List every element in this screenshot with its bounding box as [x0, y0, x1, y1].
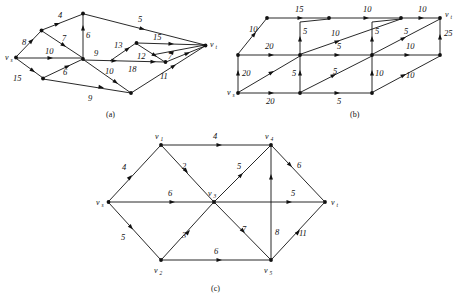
node-a-center [81, 57, 85, 61]
node-c-v4 [269, 143, 273, 147]
node-a-midupper [135, 41, 139, 45]
vertex-label-b-vt: v [445, 10, 449, 19]
capacity-a-center-midright-9: 9 [94, 48, 99, 58]
figure-b: v s v t 20 10 20 20 15 5 5 5 5 10 5 10 1… [227, 4, 453, 119]
arrowhead-vs-to-center [48, 56, 54, 60]
capacity-a-midupper-vt: 15 [153, 32, 162, 42]
node-a-vt [204, 44, 208, 48]
capacity-a-center-bottom: 10 [105, 66, 114, 76]
arrowhead-b-topleft-to-topc1 [298, 16, 304, 20]
edge-c-v5-to-vt [272, 203, 324, 259]
capacity-b-vs-midleft: 20 [242, 68, 251, 78]
arrowhead-b-topc2-to-vt [419, 16, 425, 20]
capacity-a-bottom-vt: 11 [160, 71, 168, 81]
arrowhead-b-midc2-to-topc2-vert [370, 36, 374, 42]
arrowhead-midupper-to-vt [168, 42, 174, 46]
capacity-a-vs-center: 10 [45, 46, 54, 56]
node-a-bottom [129, 91, 133, 95]
vertex-sub-a-vt: t [216, 44, 218, 50]
capacity-c-v2-v3: 3 [181, 230, 186, 240]
vertex-sub-c-v3: 3 [213, 193, 217, 199]
arrowhead-b-vs-to-botc1 [269, 91, 275, 95]
capacity-a-lowerleft-center: 6 [63, 67, 68, 77]
arrowhead-c-v1-to-v4 [217, 143, 223, 147]
capacity-a-upperleft-center: 7 [62, 33, 67, 43]
node-b-topleft [265, 16, 269, 20]
node-b-midc2 [370, 53, 374, 57]
edge-c-vs-to-v2 [109, 203, 160, 259]
figure-a-capacity-labels: 8 4 6 5 10 7 15 6 9 9 10 13 15 12 18 7 1… [13, 10, 173, 103]
figure-c-nodes [107, 143, 327, 262]
vertex-label-c-v3: v [208, 189, 212, 198]
capacity-c-v4-vt: 6 [297, 160, 302, 170]
capacity-b-topleft-topc1: 15 [295, 4, 304, 14]
arrowhead-c-vs-to-v1 [127, 174, 134, 181]
network-flow-figures: v s v t 8 4 6 5 10 7 15 6 9 9 10 13 15 1… [0, 0, 466, 297]
capacity-a-top-center: 6 [86, 30, 91, 40]
edge-vs-to-upperleft [17, 31, 41, 56]
vertex-label-c-v1: v [155, 132, 159, 141]
vertex-label-a-vs: v [5, 53, 9, 62]
node-b-vt [438, 16, 442, 20]
vertex-label-c-v5: v [264, 266, 268, 275]
vertex-sub-c-vs: s [102, 202, 104, 208]
capacity-c-v5-vt: 11 [299, 228, 307, 238]
node-c-v2 [159, 258, 163, 262]
arrowhead-b-vs-to-midleft [236, 70, 240, 76]
arrowhead-b-midc1-to-midc2 [335, 53, 341, 57]
capacity-b-vs-botc1: 20 [266, 96, 275, 106]
node-c-vt [323, 200, 327, 204]
figure-caption-c: (c) [211, 284, 220, 293]
arrowhead-bottom-to-vt [170, 63, 177, 69]
node-b-topc1 [327, 16, 331, 20]
vertex-sub-a-vs: s [11, 57, 13, 63]
arrowhead-b-botc1-to-midc1 [298, 70, 302, 76]
node-b-topc2 [399, 16, 403, 20]
arrowhead-center-to-midupper [124, 46, 131, 52]
capacity-c-v3-v5: 7 [242, 224, 247, 234]
capacity-b-botc3-vt: 25 [444, 28, 453, 38]
arrowhead-c-v3-to-vt [287, 200, 293, 204]
arrowhead-b-midc1-to-topc1-vert [298, 36, 302, 42]
figure-c: v s v 1 v 2 v 3 v 4 v 5 v t 4 5 6 4 [96, 131, 339, 293]
capacity-b-botc2-midc2: 10 [375, 68, 384, 78]
capacity-b-botc1-midc2: 5 [333, 66, 337, 76]
capacity-a-center-midright-18: 18 [128, 64, 137, 74]
edge-c-v4-to-vt [272, 146, 324, 201]
capacity-b-botc1-botc2: 5 [337, 96, 341, 106]
capacity-b-midleft-midc1: 20 [265, 41, 274, 51]
arrowhead-c-v5-to-v4 [269, 174, 273, 180]
node-b-vs [236, 91, 240, 95]
node-c-v5 [269, 258, 273, 262]
capacity-a-upperleft-top: 4 [58, 10, 63, 20]
arrowhead-b-botc2-to-midc2 [370, 70, 374, 76]
node-b-botc2 [370, 91, 374, 95]
vertex-sub-c-v1: 1 [161, 136, 164, 142]
arrowhead-center-to-midright-b [150, 60, 156, 64]
figure-b-vertex-labels: v s v t [227, 10, 453, 98]
capacity-c-vs-v3: 6 [168, 188, 173, 198]
node-b-midleft [236, 53, 240, 57]
capacity-b-midc2-botc3: 10 [406, 41, 415, 51]
capacity-a-center-midupper: 13 [114, 40, 123, 50]
figure-c-edges [109, 143, 324, 262]
capacity-b-midc2-vt: 5 [404, 26, 408, 36]
edge-b-midc1-to-topc2 [301, 19, 401, 54]
capacity-b-midc1-topc1: 5 [303, 26, 307, 36]
node-b-botc1 [298, 91, 302, 95]
vertex-label-c-v4: v [265, 132, 269, 141]
arrowhead-b-botc1-to-botc2 [335, 91, 341, 95]
node-c-v1 [159, 143, 163, 147]
node-a-upperleft [40, 29, 44, 33]
capacity-c-vs-v1: 4 [122, 162, 127, 172]
vertex-sub-c-vt: t [337, 202, 339, 208]
capacity-c-v3-vt: 5 [291, 188, 295, 198]
figure-caption-b: (b) [350, 110, 360, 119]
vertex-label-b-vs: v [227, 88, 231, 97]
edge-center-to-bottom [84, 60, 131, 93]
node-b-midc1 [298, 53, 302, 57]
arrowhead-center-to-top [81, 25, 85, 31]
vertex-label-c-vt: v [331, 198, 335, 207]
arrowhead-upperleft-to-top [54, 21, 61, 27]
figure-caption-a: (a) [106, 110, 115, 119]
